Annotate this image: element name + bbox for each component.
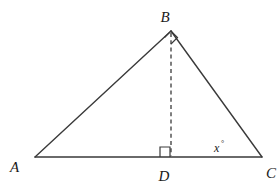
- vertex-label-d: D: [158, 168, 170, 184]
- angle-label-c: x °: [213, 139, 224, 155]
- segment-bc: [171, 31, 262, 157]
- geometry-diagram: A B C D x °: [0, 0, 280, 187]
- vertex-label-c: C: [266, 165, 277, 181]
- segment-ab: [35, 31, 171, 157]
- triangle-outline: [35, 31, 262, 157]
- vertex-label-a: A: [9, 159, 20, 175]
- right-angle-marker-d: [160, 147, 170, 157]
- triangle-figure-svg: A B C D x °: [0, 0, 280, 187]
- angle-value-x: x: [213, 141, 220, 155]
- vertex-label-b: B: [160, 9, 169, 25]
- degree-symbol-icon: °: [221, 139, 224, 148]
